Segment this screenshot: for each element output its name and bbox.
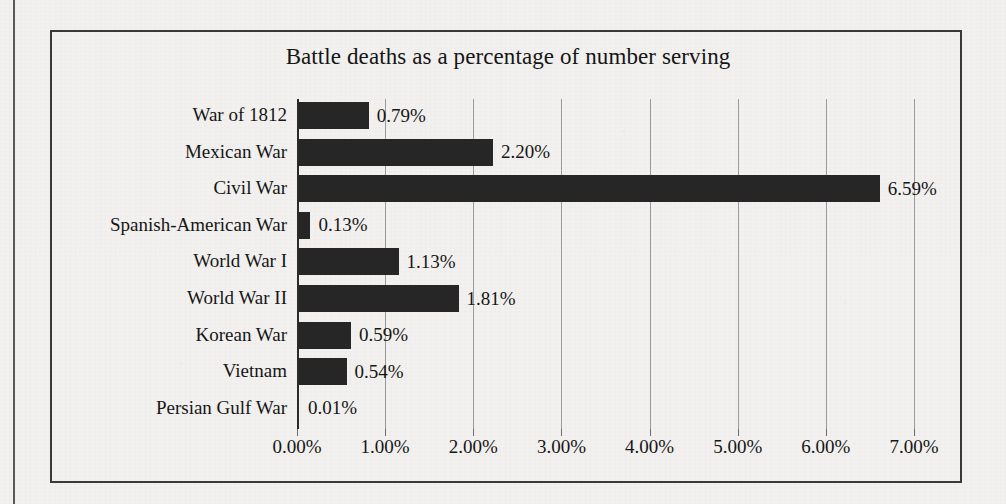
tick-mark <box>650 429 651 436</box>
category-label: World War II <box>187 287 287 309</box>
bar-row[interactable]: 0.54% <box>297 358 914 385</box>
chart-title: Battle deaths as a percentage of number … <box>52 44 964 70</box>
category-label: Persian Gulf War <box>156 397 287 419</box>
bar[interactable] <box>299 358 347 385</box>
bar-value-label: 0.01% <box>308 397 357 419</box>
tick-label: 1.00% <box>361 436 410 458</box>
bar-row[interactable]: 1.13% <box>297 248 914 275</box>
tick-label: 2.00% <box>449 436 498 458</box>
category-axis-labels: War of 1812Mexican WarCivil WarSpanish-A… <box>52 99 287 429</box>
bar-row[interactable]: 2.20% <box>297 139 914 166</box>
bar-value-label: 0.59% <box>359 324 408 346</box>
tick-mark <box>385 429 386 436</box>
bar-row[interactable]: 6.59% <box>297 175 914 202</box>
gridline <box>914 99 915 429</box>
bar-value-label: 0.54% <box>355 361 404 383</box>
tick-mark <box>826 429 827 436</box>
bar[interactable] <box>299 322 351 349</box>
category-label: War of 1812 <box>193 104 288 126</box>
tick-mark <box>473 429 474 436</box>
tick-mark <box>297 429 298 436</box>
category-label: Civil War <box>213 177 287 199</box>
tick-mark <box>561 429 562 436</box>
tick-label: 4.00% <box>625 436 674 458</box>
bar-value-label: 1.81% <box>467 288 516 310</box>
bar-row[interactable]: 0.59% <box>297 322 914 349</box>
tick-label: 0.00% <box>272 436 321 458</box>
tick-label: 3.00% <box>537 436 586 458</box>
category-label: Mexican War <box>185 141 287 163</box>
bar[interactable] <box>299 248 399 275</box>
bar-value-label: 2.20% <box>501 141 550 163</box>
tick-label: 6.00% <box>801 436 850 458</box>
tick-label: 5.00% <box>713 436 762 458</box>
bar[interactable] <box>299 285 459 312</box>
bar-row[interactable]: 1.81% <box>297 285 914 312</box>
tick-label: 7.00% <box>889 436 938 458</box>
bar[interactable] <box>299 102 369 129</box>
bar[interactable] <box>299 212 310 239</box>
chart-frame: Battle deaths as a percentage of number … <box>50 30 962 483</box>
plot-area: 0.79%2.20%6.59%0.13%1.13%1.81%0.59%0.54%… <box>297 99 914 429</box>
bar[interactable] <box>299 139 493 166</box>
bar-row[interactable]: 0.79% <box>297 102 914 129</box>
category-label: Spanish-American War <box>110 214 287 236</box>
category-label: World War I <box>193 250 287 272</box>
bar-value-label: 1.13% <box>407 251 456 273</box>
category-label: Vietnam <box>223 360 287 382</box>
bar[interactable] <box>299 175 880 202</box>
bar-row[interactable]: 0.01% <box>297 395 914 422</box>
bar-value-label: 0.79% <box>377 105 426 127</box>
page-margin-rule <box>13 0 15 504</box>
bar-value-label: 0.13% <box>318 214 367 236</box>
bar-value-label: 6.59% <box>888 178 937 200</box>
bar-row[interactable]: 0.13% <box>297 212 914 239</box>
tick-mark <box>914 429 915 436</box>
value-axis-tick-labels: 0.00%1.00%2.00%3.00%4.00%5.00%6.00%7.00% <box>297 436 914 462</box>
tick-mark <box>738 429 739 436</box>
category-label: Korean War <box>196 324 288 346</box>
